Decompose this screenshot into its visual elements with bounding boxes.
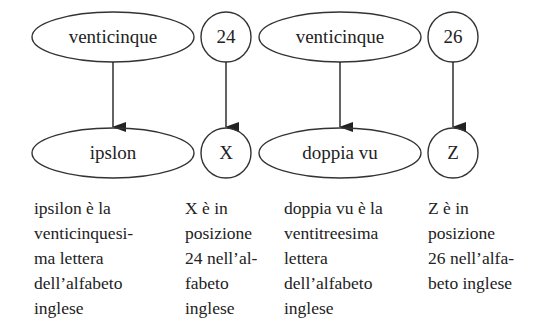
caption-z: Z è in posizione 26 nell’alfa- beto ingl… <box>428 196 514 296</box>
caption-line: venticinquesi- <box>34 221 133 246</box>
caption-line: Z è in <box>428 196 514 221</box>
node-bottom-ipslon: ipslon <box>32 128 194 178</box>
caption-line: beto inglese <box>428 271 514 296</box>
caption-line: posizione <box>428 221 514 246</box>
caption-line: ventitreesima <box>284 221 383 246</box>
caption-line: X è in <box>185 196 257 221</box>
node-label: 26 <box>444 26 463 47</box>
caption-line: inglese <box>34 296 133 321</box>
caption-line: ipsilon è la <box>34 196 133 221</box>
node-bottom-doppia-vu: doppia vu <box>259 128 421 178</box>
node-top-24: 24 <box>201 12 251 62</box>
caption-line: doppia vu è la <box>284 196 383 221</box>
node-label: doppia vu <box>302 142 378 163</box>
node-bottom-x: X <box>201 128 251 178</box>
node-label: Z <box>447 142 459 163</box>
node-label: venticinque <box>296 26 385 47</box>
node-label: ipslon <box>90 142 137 163</box>
node-label: 24 <box>217 26 237 47</box>
node-bottom-z: Z <box>428 128 478 178</box>
caption-line: 26 nell’alfa- <box>428 246 514 271</box>
caption-x: X è in posizione 24 nell’al- fabeto ingl… <box>185 196 257 321</box>
node-top-venticinque-1: venticinque <box>32 12 194 62</box>
caption-line: inglese <box>185 296 257 321</box>
node-label: venticinque <box>69 26 158 47</box>
node-top-venticinque-2: venticinque <box>259 12 421 62</box>
caption-line: inglese <box>284 296 383 321</box>
node-top-26: 26 <box>428 12 478 62</box>
node-label: X <box>219 142 233 163</box>
caption-line: ma lettera <box>34 246 133 271</box>
caption-doppia-vu: doppia vu è la ventitreesima lettera del… <box>284 196 383 321</box>
caption-line: dell’alfabeto <box>34 271 133 296</box>
caption-ipsilon: ipsilon è la venticinquesi- ma lettera d… <box>34 196 133 321</box>
caption-line: posizione <box>185 221 257 246</box>
caption-line: 24 nell’al- <box>185 246 257 271</box>
caption-line: lettera <box>284 246 383 271</box>
caption-line: dell’alfabeto <box>284 271 383 296</box>
caption-line: fabeto <box>185 271 257 296</box>
